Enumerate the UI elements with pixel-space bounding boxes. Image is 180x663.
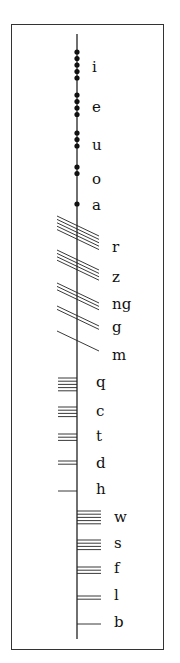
letter-i-dot bbox=[74, 56, 79, 61]
letter-o-dot bbox=[74, 171, 79, 176]
letter-m-stroke bbox=[57, 331, 99, 351]
letter-e-dot bbox=[74, 112, 79, 117]
letter-s-label: s bbox=[114, 536, 122, 551]
letter-a-label: a bbox=[92, 198, 101, 213]
letter-w-label: w bbox=[114, 510, 127, 525]
letter-z-label: z bbox=[112, 270, 120, 285]
letter-e-dot bbox=[74, 105, 79, 110]
ogham-diagram bbox=[0, 0, 180, 663]
letter-t-label: t bbox=[96, 429, 102, 444]
letter-ng-label: ng bbox=[112, 297, 131, 312]
letter-a-dot bbox=[74, 201, 79, 206]
letter-g-stroke bbox=[57, 306, 99, 326]
letter-l-label: l bbox=[114, 588, 119, 603]
letter-u-dot bbox=[74, 130, 79, 135]
letter-o-label: o bbox=[92, 172, 101, 187]
letter-i-dot bbox=[74, 49, 79, 54]
letter-b-label: b bbox=[114, 615, 124, 630]
letter-e-dot bbox=[74, 99, 79, 104]
letter-i-label: i bbox=[92, 60, 97, 75]
letter-u-dot bbox=[74, 143, 79, 148]
letter-m-label: m bbox=[112, 348, 126, 363]
letter-g-stroke bbox=[57, 309, 99, 329]
letter-e-label: e bbox=[92, 100, 101, 115]
letter-i-dot bbox=[74, 75, 79, 80]
letter-e-dot bbox=[74, 92, 79, 97]
letter-r-label: r bbox=[112, 240, 119, 255]
letter-i-dot bbox=[74, 62, 79, 67]
letter-u-label: u bbox=[92, 138, 102, 153]
letter-ng-stroke bbox=[57, 286, 99, 306]
letter-g-label: g bbox=[112, 320, 122, 335]
letter-q-label: q bbox=[96, 375, 106, 390]
letter-i-dot bbox=[74, 69, 79, 74]
letter-c-label: c bbox=[96, 404, 104, 419]
letter-o-dot bbox=[74, 164, 79, 169]
letter-f-label: f bbox=[114, 561, 120, 576]
letter-d-label: d bbox=[96, 456, 106, 471]
letter-h-label: h bbox=[96, 482, 106, 497]
letter-u-dot bbox=[74, 137, 79, 142]
